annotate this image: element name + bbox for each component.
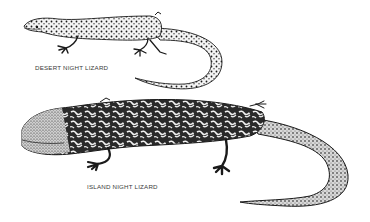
desert-night-lizard	[24, 12, 222, 89]
island-night-lizard-label: ISLAND NIGHT LIZARD	[87, 184, 158, 190]
island-head	[22, 108, 70, 154]
desert-eye	[36, 26, 38, 28]
island-night-lizard	[22, 98, 348, 206]
island-far-foot	[250, 101, 266, 108]
lizard-illustration: DESERT NIGHT LIZARD ISLAND NIGHT LIZARD	[0, 0, 370, 222]
desert-night-lizard-label: DESERT NIGHT LIZARD	[35, 65, 108, 71]
island-hind-leg	[214, 140, 229, 174]
desert-front-leg	[58, 36, 78, 53]
lizard-drawing	[0, 0, 370, 222]
desert-hind-leg	[134, 38, 166, 56]
desert-body	[24, 16, 162, 40]
